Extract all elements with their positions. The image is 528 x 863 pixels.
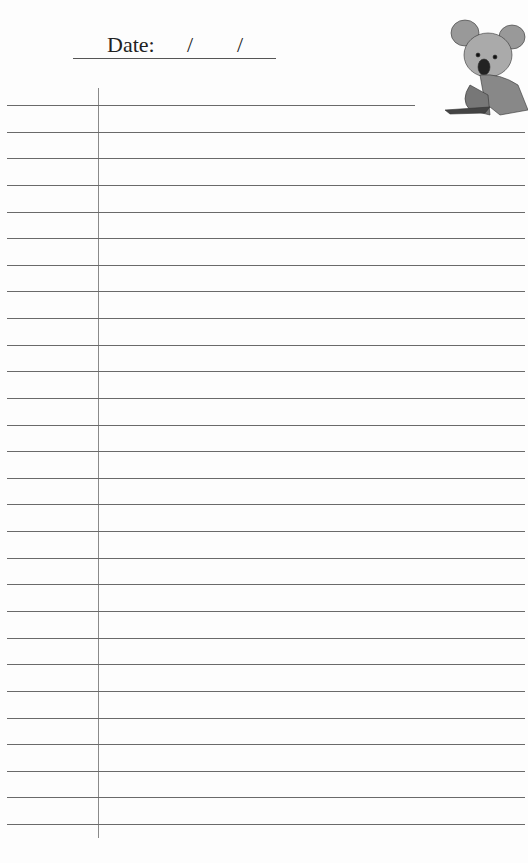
ruled-line xyxy=(7,265,525,266)
ruled-line xyxy=(7,691,525,692)
ruled-line xyxy=(7,771,525,772)
date-slash-1: / xyxy=(187,32,193,58)
ruled-line xyxy=(7,238,525,239)
ruled-line xyxy=(7,584,525,585)
ruled-line xyxy=(7,744,525,745)
date-slash-2: / xyxy=(237,32,243,58)
ruled-line xyxy=(7,664,525,665)
ruled-line xyxy=(7,824,525,825)
ruled-line xyxy=(7,291,525,292)
margin-line xyxy=(98,88,99,838)
ruled-line xyxy=(7,425,525,426)
ruled-line xyxy=(7,185,525,186)
ruled-line xyxy=(7,132,525,133)
ruled-line xyxy=(7,718,525,719)
date-underline xyxy=(73,58,276,59)
date-field[interactable]: Date: / / xyxy=(73,10,276,60)
ruled-line xyxy=(7,638,525,639)
ruled-line xyxy=(7,451,525,452)
ruled-line xyxy=(7,504,525,505)
ruled-line xyxy=(7,531,525,532)
ruled-line xyxy=(7,105,415,106)
date-label: Date: xyxy=(107,32,155,58)
ruled-line xyxy=(7,398,525,399)
ruled-line xyxy=(7,158,525,159)
koala-illustration xyxy=(440,15,528,120)
ruled-line xyxy=(7,212,525,213)
ruled-line xyxy=(7,478,525,479)
ruled-line xyxy=(7,797,525,798)
ruled-line xyxy=(7,371,525,372)
ruled-line xyxy=(7,345,525,346)
ruled-line xyxy=(7,318,525,319)
ruled-line xyxy=(7,611,525,612)
ruled-line xyxy=(7,558,525,559)
